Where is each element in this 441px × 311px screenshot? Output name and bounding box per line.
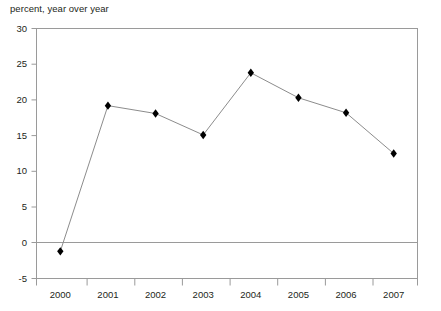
y-axis-tick-label: 0 bbox=[3, 237, 27, 248]
x-axis-tick-label: 2001 bbox=[88, 289, 128, 300]
x-axis-tick-label: 2007 bbox=[374, 289, 414, 300]
y-axis-tick-label: 25 bbox=[3, 58, 27, 69]
y-axis-tick-label: -5 bbox=[3, 273, 27, 284]
x-axis-tick-label: 2003 bbox=[183, 289, 223, 300]
x-axis-tick-label: 2000 bbox=[40, 289, 80, 300]
x-axis-tick-label: 2002 bbox=[136, 289, 176, 300]
plot-border bbox=[37, 29, 418, 279]
x-axis-ticks bbox=[37, 279, 418, 286]
y-axis-tick-label: 5 bbox=[3, 201, 27, 212]
plot-frame bbox=[37, 29, 418, 279]
x-axis-tick-label: 2004 bbox=[231, 289, 271, 300]
y-axis-ticks bbox=[32, 29, 37, 279]
chart-plot-area bbox=[0, 0, 441, 311]
y-axis-tick-label: 20 bbox=[3, 94, 27, 105]
chart-container: percent, year over year bbox=[0, 0, 441, 311]
y-axis-tick-label: 30 bbox=[3, 23, 27, 34]
x-axis-tick-label: 2005 bbox=[278, 289, 318, 300]
x-axis-tick-label: 2006 bbox=[326, 289, 366, 300]
y-axis-tick-label: 10 bbox=[3, 165, 27, 176]
y-axis-tick-label: 15 bbox=[3, 130, 27, 141]
